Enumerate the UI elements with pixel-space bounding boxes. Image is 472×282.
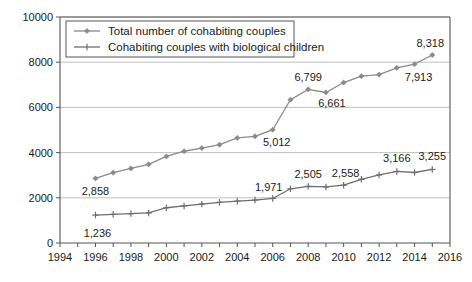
data-label: 8,318 [417,37,445,49]
data-label: 5,012 [263,136,291,148]
y-tick-label: 4000 [29,147,53,159]
x-tick-label: 1996 [83,251,107,263]
legend: Total number of cohabiting couplesCohabi… [66,21,324,57]
y-tick-label: 8000 [29,56,53,68]
data-label: 2,858 [82,185,110,197]
data-label: 3,255 [419,150,447,162]
chart-container: Thousands 0200040006000800010000 1994199… [0,0,472,282]
x-tick-label: 2008 [296,251,320,263]
x-tick-label: 1994 [48,251,72,263]
data-label: 2,558 [332,167,360,179]
x-axis-ticks: 1994199619982000200220042006200820102012… [48,243,462,263]
x-tick-label: 2014 [402,251,426,263]
x-tick-label: 2006 [260,251,284,263]
data-label: 7,913 [405,71,433,83]
y-axis-ticks: 0200040006000800010000 [22,11,60,249]
x-tick-label: 2012 [367,251,391,263]
x-tick-label: 2010 [331,251,355,263]
data-label: 1,236 [84,227,112,239]
data-label: 6,661 [318,97,346,109]
x-tick-label: 2002 [190,251,214,263]
data-label: 1,971 [255,181,283,193]
y-tick-label: 10000 [22,11,53,23]
data-label: 6,799 [294,71,322,83]
x-tick-label: 2016 [438,251,462,263]
legend-label-0: Total number of cohabiting couples [108,25,286,37]
x-tick-label: 1998 [119,251,143,263]
x-tick-label: 2004 [225,251,249,263]
data-label: 3,166 [383,152,411,164]
data-label: 2,505 [294,168,322,180]
line-chart: 0200040006000800010000 19941996199820002… [0,0,472,282]
y-tick-label: 6000 [29,101,53,113]
legend-label-1: Cohabiting couples with biological child… [108,41,324,53]
x-tick-label: 2000 [154,251,178,263]
y-tick-label: 2000 [29,192,53,204]
y-tick-label: 0 [47,237,53,249]
